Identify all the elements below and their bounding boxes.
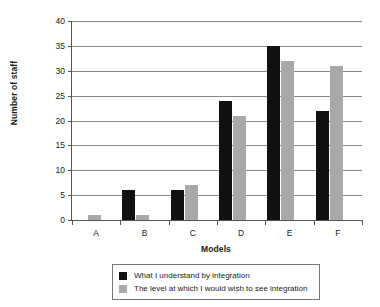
y-axis-title: Number of staff xyxy=(9,33,19,153)
x-axis-tick-label: A xyxy=(93,228,99,238)
x-axis-tick-label: C xyxy=(190,228,196,238)
y-axis-tick-mark xyxy=(68,145,72,146)
y-axis-tick-mark xyxy=(68,121,72,122)
y-axis-tick-mark xyxy=(68,195,72,196)
y-axis-tick-mark xyxy=(68,71,72,72)
y-axis-tick-label: 40 xyxy=(56,16,65,26)
x-axis-tick-mark xyxy=(314,220,315,225)
plot-area: 0510152025303540ABCDEF xyxy=(71,21,362,221)
bar xyxy=(122,190,135,220)
y-axis-tick-label: 5 xyxy=(60,190,65,200)
bar xyxy=(171,190,184,220)
bar xyxy=(281,61,294,220)
legend-item: The level at which I would wish to see i… xyxy=(119,282,313,295)
gridline xyxy=(72,96,362,97)
legend-swatch xyxy=(119,285,127,293)
y-axis-tick-label: 30 xyxy=(56,66,65,76)
legend-label: What I understand by integration xyxy=(134,271,250,280)
y-axis-tick-label: 0 xyxy=(60,215,65,225)
y-axis-tick-label: 35 xyxy=(56,41,65,51)
x-axis-tick-mark xyxy=(72,220,73,225)
y-axis-tick-label: 20 xyxy=(56,116,65,126)
legend-swatch xyxy=(119,272,127,280)
x-axis-tick-mark xyxy=(120,220,121,225)
y-axis-tick-label: 10 xyxy=(56,165,65,175)
gridline xyxy=(72,21,362,22)
legend-label: The level at which I would wish to see i… xyxy=(134,284,307,293)
y-axis-tick-mark xyxy=(68,96,72,97)
legend-item: What I understand by integration xyxy=(119,269,313,282)
gridline xyxy=(72,46,362,47)
bar xyxy=(330,66,343,220)
x-axis-title: Models xyxy=(71,244,361,254)
bar xyxy=(233,116,246,220)
bar xyxy=(136,215,149,220)
bar-chart: Number of staff 0510152025303540ABCDEF M… xyxy=(0,0,380,307)
x-axis-tick-mark xyxy=(217,220,218,225)
x-axis-tick-mark xyxy=(169,220,170,225)
bar xyxy=(316,111,329,220)
y-axis-tick-mark xyxy=(68,46,72,47)
x-axis-tick-label: B xyxy=(142,228,148,238)
bar xyxy=(88,215,101,220)
gridline xyxy=(72,71,362,72)
y-axis-tick-label: 15 xyxy=(56,140,65,150)
y-axis-tick-mark xyxy=(68,170,72,171)
x-axis-tick-label: E xyxy=(287,228,293,238)
x-axis-tick-mark xyxy=(265,220,266,225)
x-axis-tick-label: D xyxy=(238,228,244,238)
bar xyxy=(267,46,280,220)
bar xyxy=(185,185,198,220)
x-axis-tick-label: F xyxy=(335,228,340,238)
x-axis-tick-mark xyxy=(362,220,363,225)
y-axis-tick-mark xyxy=(68,21,72,22)
y-axis-tick-label: 25 xyxy=(56,91,65,101)
bar xyxy=(219,101,232,220)
chart-legend: What I understand by integrationThe leve… xyxy=(112,264,320,300)
